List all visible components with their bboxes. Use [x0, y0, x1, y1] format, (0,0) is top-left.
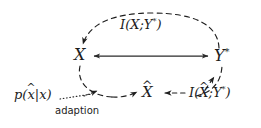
- label-mutual-information-bottom: I(^X;Y*): [189, 86, 231, 99]
- node-x-hat-caret: ^: [142, 80, 152, 92]
- label-mutual-information-top: I(X;Y*): [120, 18, 162, 31]
- mi-bot-x-hat-group: ^X: [199, 86, 208, 99]
- node-x-hat: ^X: [142, 85, 153, 100]
- p-middle: |x: [35, 87, 47, 102]
- node-x-hat-group: ^X: [142, 85, 153, 100]
- mi-top-prefix: I(X;: [120, 17, 144, 32]
- p-x-hat-group: ^x: [27, 88, 34, 101]
- p-suffix: ): [46, 87, 51, 102]
- node-x: X: [74, 47, 85, 63]
- p-x-hat-caret: ^: [26, 83, 35, 94]
- edge-arc-bottom-left: [79, 66, 137, 97]
- node-y-star-base: Y: [214, 46, 225, 65]
- diagram-canvas: X Y* ^X I(X;Y*) I(^X;Y*) p(^x|x) adaptio…: [0, 0, 261, 128]
- p-prefix: p(: [14, 87, 27, 102]
- mi-bot-suffix: ): [226, 85, 231, 100]
- mi-bot-x-hat-caret: ^: [199, 82, 208, 93]
- label-adaption-caption: adaption: [55, 106, 99, 116]
- edge-adaption-link: [60, 91, 97, 99]
- node-x-text: X: [74, 45, 85, 64]
- mi-top-suffix: ): [156, 17, 161, 32]
- label-adaption-distribution: p(^x|x): [14, 88, 52, 101]
- mi-bot-prefix: I(: [189, 85, 199, 100]
- node-y-star: Y*: [214, 47, 230, 64]
- node-y-star-asterisk: *: [225, 46, 230, 57]
